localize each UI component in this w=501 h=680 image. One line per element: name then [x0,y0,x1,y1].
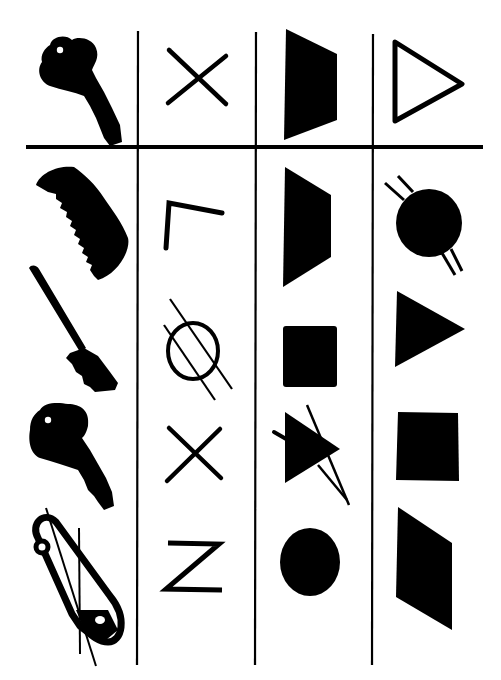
key-icon [29,403,114,510]
square-icon [283,326,337,387]
diagram-canvas [0,0,501,680]
circle-crossed-icon [164,299,232,400]
safety-pin-crossed-icon [36,508,122,666]
filled-circle-icon [280,528,340,596]
toothbrush-icon [29,265,118,392]
filled-square-icon [396,412,459,481]
symbol-grid-diagram [0,0,501,680]
letter-z-icon [166,543,222,590]
letter-x-icon [167,428,221,481]
trapezoid-icon-reference [284,29,337,140]
comb-icon [36,167,128,280]
filled-circle-crossed-icon [385,176,462,275]
vertical-divider-3 [372,34,373,665]
filled-triangle-icon [395,291,465,367]
letter-l-icon [166,203,222,248]
key-icon-reference [39,37,122,146]
parallelogram-icon [396,507,452,630]
vertical-divider-1 [137,31,138,665]
triangle-outline-icon-reference [395,42,462,121]
letter-x-icon-reference [168,50,226,104]
triangle-crossed-icon [274,405,349,505]
trapezoid-icon [283,167,331,287]
vertical-divider-2 [255,32,256,665]
